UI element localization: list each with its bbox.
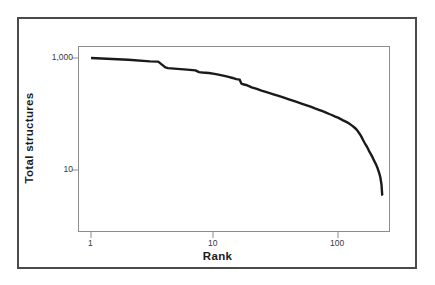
chart-canvas bbox=[0, 0, 435, 285]
x-axis-tick-label-100: 100 bbox=[330, 238, 344, 248]
figure-container: 1,000 10 1 10 100 Rank Total structures bbox=[0, 0, 435, 285]
y-axis-tick-label-10: 10 bbox=[64, 164, 73, 174]
x-axis-tick-label-1: 1 bbox=[88, 238, 93, 248]
y-axis-title: Total structures bbox=[23, 78, 35, 198]
x-axis-title: Rank bbox=[0, 250, 435, 262]
y-axis-tick-label-1000: 1,000 bbox=[52, 52, 73, 62]
x-axis-tick-label-10: 10 bbox=[208, 238, 217, 248]
data-series-line bbox=[91, 58, 383, 196]
y-axis-ticks bbox=[72, 58, 78, 170]
